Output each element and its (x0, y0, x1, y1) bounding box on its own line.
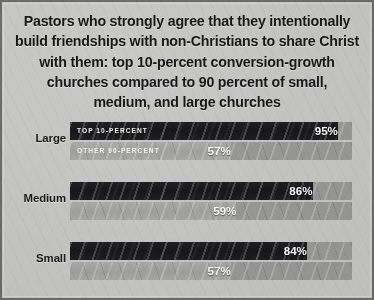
bar-track-large-other: OTHER 90-PERCENT 57% (70, 142, 352, 160)
bar-value-small-top10: 84% (284, 242, 307, 260)
bar-medium-top10 (70, 182, 313, 200)
category-label-small: Small (0, 252, 66, 264)
bar-chart-plot-area: Large TOP 10-PERCENT 95% OTHER 90-PERCEN… (0, 122, 374, 282)
bar-track-medium-top: 86% (70, 182, 352, 200)
bar-medium-other90 (70, 202, 236, 220)
bar-group-large: Large TOP 10-PERCENT 95% OTHER 90-PERCEN… (0, 122, 374, 162)
bar-small-top10 (70, 242, 307, 260)
title-line-3: with them: top 10-percent conversion-gro… (10, 52, 364, 72)
series-label-top10: TOP 10-PERCENT (77, 122, 148, 140)
bar-track-medium-other: 59% (70, 202, 352, 220)
bar-value-medium-other90: 59% (213, 202, 236, 220)
bar-value-medium-top10: 86% (289, 182, 312, 200)
title-line-4: churches compared to 90 percent of small… (10, 72, 364, 92)
bar-track-small-top: 84% (70, 242, 352, 260)
bar-track-large-top: TOP 10-PERCENT 95% (70, 122, 352, 140)
title-line-1: Pastors who strongly agree that they int… (10, 11, 364, 31)
bar-group-medium: Medium 86% 59% (0, 182, 374, 222)
bar-track-small-other: 57% (70, 262, 352, 280)
title-line-5: medium, and large churches (10, 92, 364, 112)
bar-value-small-other90: 57% (207, 262, 230, 280)
category-label-large: Large (0, 132, 66, 144)
title-line-2: build friendships with non-Christians to… (10, 31, 364, 51)
chart-title: Pastors who strongly agree that they int… (10, 11, 364, 112)
chart-figure: Pastors who strongly agree that they int… (0, 0, 374, 300)
series-label-other90: OTHER 90-PERCENT (77, 142, 160, 160)
bar-value-large-other90: 57% (207, 142, 230, 160)
bar-group-small: Small 84% 57% (0, 242, 374, 282)
bar-value-large-top10: 95% (315, 122, 338, 140)
category-label-medium: Medium (0, 192, 66, 204)
